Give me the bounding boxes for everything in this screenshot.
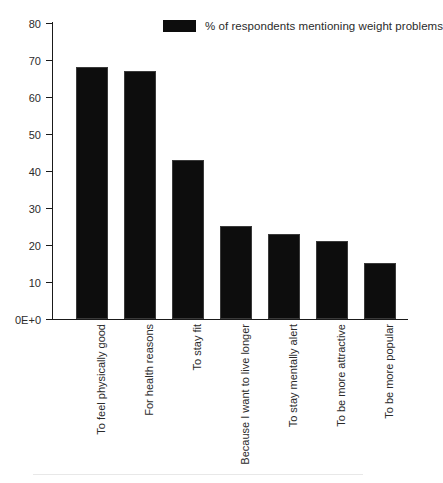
y-axis-tick-label: 80 bbox=[29, 18, 41, 30]
bar-slot bbox=[316, 23, 348, 319]
x-axis-category-label: To stay fit bbox=[192, 324, 203, 370]
y-axis-tick-label: 30 bbox=[29, 203, 41, 215]
y-axis-tick-label: 70 bbox=[29, 55, 41, 67]
bar[interactable] bbox=[76, 67, 108, 319]
x-axis-line bbox=[52, 319, 408, 320]
bar[interactable] bbox=[172, 160, 204, 319]
y-axis-tick-label: 50 bbox=[29, 129, 41, 141]
y-axis-tick-label: 20 bbox=[29, 240, 41, 252]
bar-slot bbox=[268, 23, 300, 319]
bar-series bbox=[52, 23, 408, 319]
x-axis-category-label: For health reasons bbox=[144, 324, 155, 416]
y-axis-tick-label: 60 bbox=[29, 92, 41, 104]
bar-slot bbox=[124, 23, 156, 319]
bar-slot bbox=[364, 23, 396, 319]
bar-slot bbox=[172, 23, 204, 319]
bar[interactable] bbox=[220, 226, 252, 319]
bar-slot bbox=[220, 23, 252, 319]
bar-slot bbox=[76, 23, 108, 319]
x-axis-category-labels: To feel physically goodFor health reason… bbox=[52, 324, 408, 474]
x-axis-category-label: To be more popular bbox=[384, 324, 395, 419]
y-axis-tick-label: 40 bbox=[29, 166, 41, 178]
x-axis-category-label: To feel physically good bbox=[96, 324, 107, 435]
footer-divider bbox=[33, 474, 363, 475]
bar[interactable] bbox=[124, 71, 156, 319]
x-axis-category-label: To stay mentally alert bbox=[288, 324, 299, 427]
x-axis-category-label: To be more attractive bbox=[336, 324, 347, 427]
y-axis-tick-label: 10 bbox=[29, 277, 41, 289]
plot-area: 80706050403020100E+0 bbox=[52, 22, 408, 320]
x-axis-category-label: Because I want to live longer bbox=[240, 324, 251, 465]
y-axis-tick-label: 0E+0 bbox=[15, 314, 41, 326]
bar[interactable] bbox=[364, 263, 396, 319]
bar[interactable] bbox=[316, 241, 348, 319]
y-axis-tick: 0E+0 bbox=[46, 319, 52, 320]
bar[interactable] bbox=[268, 234, 300, 319]
